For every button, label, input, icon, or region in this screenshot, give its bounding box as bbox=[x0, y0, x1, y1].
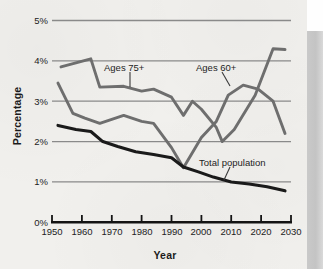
x-tick-label-1990: 1990 bbox=[157, 226, 187, 237]
series-lines-group bbox=[58, 49, 285, 191]
x-axis-title: Year bbox=[40, 249, 290, 261]
y-tick-label-4pct: 4% bbox=[22, 55, 48, 66]
series-label-ages-75: Ages 75+ bbox=[104, 62, 144, 73]
leader-line-ages-60 bbox=[222, 72, 230, 86]
y-tick-label-2pct: 2% bbox=[22, 136, 48, 147]
x-tick-label-2020: 2020 bbox=[246, 226, 276, 237]
x-axis-group bbox=[51, 215, 292, 222]
y-tick-label-5pct: 5% bbox=[22, 15, 48, 26]
x-tick-label-2000: 2000 bbox=[186, 226, 216, 237]
x-tick-label-1970: 1970 bbox=[97, 226, 127, 237]
series-label-total-population: Total population bbox=[199, 157, 266, 168]
x-tick-label-1960: 1960 bbox=[67, 226, 97, 237]
x-tick-label-2010: 2010 bbox=[216, 226, 246, 237]
y-tick-label-1pct: 1% bbox=[22, 176, 48, 187]
leader-line-total-population bbox=[224, 167, 230, 180]
y-tick-label-3pct: 3% bbox=[22, 96, 48, 107]
series-line-ages-75 bbox=[61, 49, 285, 142]
x-tick-label-1980: 1980 bbox=[127, 226, 157, 237]
x-tick-label-2030: 2030 bbox=[276, 226, 306, 237]
figure-chart-age-percentage: Percentage Year 5% 4% 3% 2% 1% 0% 1950 1… bbox=[0, 0, 323, 269]
x-tick-label-1950: 1950 bbox=[37, 226, 67, 237]
series-label-ages-60: Ages 60+ bbox=[196, 62, 236, 73]
